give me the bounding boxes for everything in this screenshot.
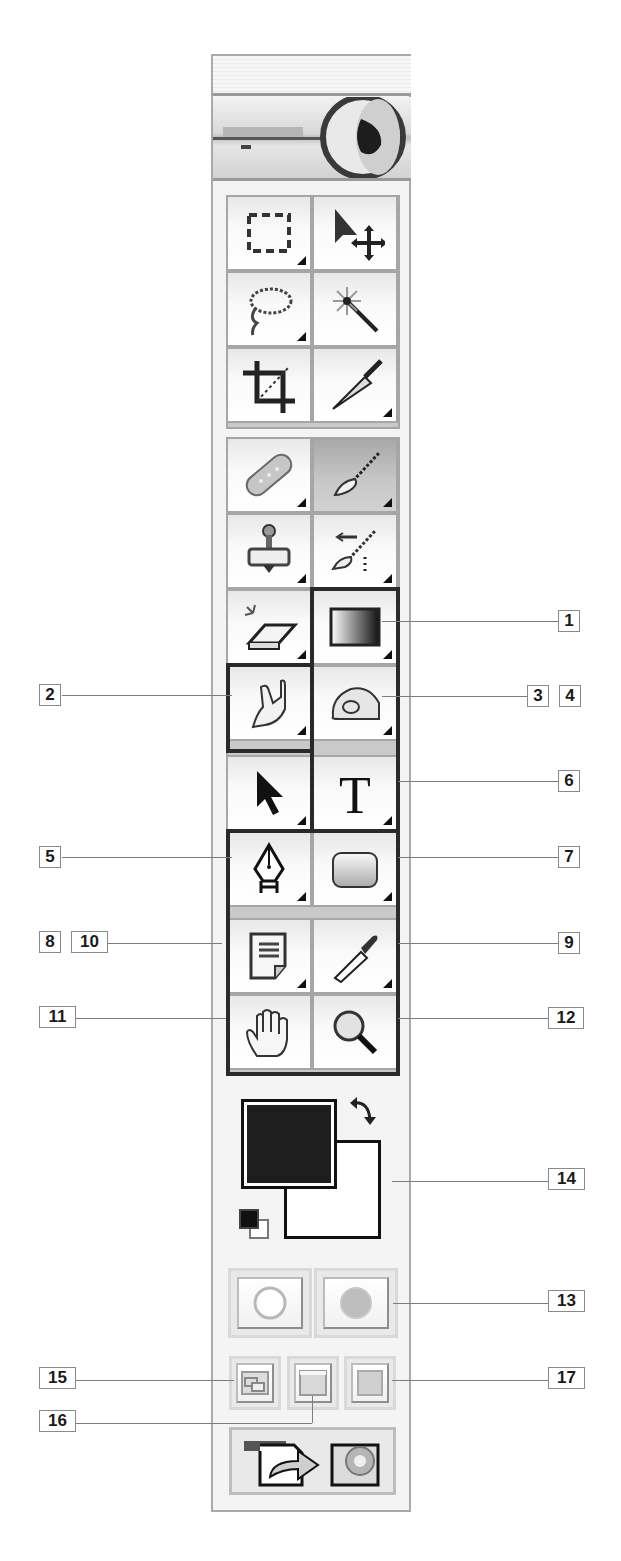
eraser-tool[interactable] [226, 589, 312, 665]
lasso-tool[interactable] [226, 271, 312, 347]
leader-line-3-4 [382, 696, 527, 697]
leader-line-16 [76, 1423, 312, 1424]
toolbox-title-bar[interactable] [213, 56, 411, 96]
notes-tool[interactable] [226, 918, 312, 994]
slice-tool[interactable] [312, 347, 398, 423]
flyout-indicator-icon [297, 650, 306, 659]
callout-4: 4 [559, 685, 581, 707]
callout-10: 10 [71, 931, 108, 953]
move-tool[interactable] [312, 195, 398, 271]
leader-line-6 [398, 781, 558, 782]
callout-5: 5 [39, 846, 61, 868]
crop-tool[interactable] [226, 347, 312, 423]
foreground-color-swatch[interactable] [241, 1099, 337, 1189]
dodge-tool[interactable] [312, 665, 398, 741]
callout-15: 15 [39, 1367, 76, 1389]
eyedropper-tool[interactable] [312, 918, 398, 994]
swap-arrows-icon[interactable] [348, 1095, 378, 1131]
quick-mask-mode-button[interactable] [314, 1268, 398, 1338]
leader-line-13 [393, 1303, 548, 1304]
smudge-tool[interactable] [226, 665, 312, 741]
callout-13: 13 [548, 1290, 585, 1312]
zoom-tool[interactable] [312, 994, 398, 1070]
standard-screen-mode-button[interactable] [229, 1356, 281, 1410]
clone-stamp-tool[interactable] [226, 513, 312, 589]
leader-line-8-10 [108, 943, 222, 944]
leader-line-16-vertical [312, 1396, 313, 1423]
crop-icon [239, 355, 299, 415]
history-brush-icon [325, 521, 385, 581]
windows-icon [240, 1370, 270, 1396]
type-tool[interactable]: T [312, 755, 398, 831]
flyout-indicator-icon [297, 816, 306, 825]
slice-knife-icon [325, 355, 385, 415]
flyout-indicator-icon [383, 726, 392, 735]
dodge-sponge-icon [325, 673, 385, 733]
plain-square-icon [356, 1369, 384, 1397]
leader-line-2 [62, 695, 232, 696]
flyout-indicator-icon [297, 892, 306, 901]
history-brush-tool[interactable] [312, 513, 398, 589]
flyout-indicator-icon [383, 574, 392, 583]
leader-line-1 [382, 621, 558, 622]
leader-line-14 [392, 1181, 548, 1182]
eraser-icon [239, 597, 299, 657]
marquee-icon [239, 203, 299, 263]
bandage-icon [239, 445, 299, 505]
leader-line-9 [398, 943, 558, 944]
callout-8: 8 [39, 931, 61, 953]
empty-circle-icon [252, 1285, 288, 1321]
gradient-tool[interactable] [312, 589, 398, 665]
leader-line-12 [398, 1018, 548, 1019]
callout-3: 3 [527, 685, 549, 707]
leader-line-15 [76, 1380, 234, 1381]
magic-wand-icon [325, 279, 385, 339]
smudge-finger-icon [239, 673, 299, 733]
rounded-rect-icon [325, 839, 385, 899]
flyout-indicator-icon [297, 256, 306, 265]
flyout-indicator-icon [383, 498, 392, 507]
leader-line-11 [76, 1018, 226, 1019]
full-screen-menu-mode-button[interactable] [287, 1356, 339, 1410]
flyout-indicator-icon [383, 979, 392, 988]
default-colors-icon[interactable] [239, 1209, 271, 1241]
flyout-indicator-icon [297, 979, 306, 988]
jump-arrow-icon [238, 1433, 388, 1489]
window-menubar-icon [298, 1369, 328, 1397]
arrow-cursor-icon [239, 763, 299, 823]
flyout-indicator-icon [383, 892, 392, 901]
callout-6: 6 [558, 770, 580, 792]
brush-tool[interactable] [312, 437, 398, 513]
callout-2: 2 [39, 684, 61, 706]
jump-to-imageready-button[interactable] [229, 1427, 396, 1495]
standard-mode-button[interactable] [228, 1268, 312, 1338]
magic-wand-tool[interactable] [312, 271, 398, 347]
callout-12: 12 [548, 1007, 584, 1029]
callout-16: 16 [39, 1410, 76, 1432]
pen-tool[interactable] [226, 831, 312, 907]
callout-9: 9 [558, 932, 580, 954]
shape-tool[interactable] [312, 831, 398, 907]
healing-brush-tool[interactable] [226, 437, 312, 513]
flyout-indicator-icon [383, 816, 392, 825]
move-icon [325, 203, 385, 263]
flyout-indicator-icon [297, 498, 306, 507]
type-t-icon: T [325, 763, 385, 823]
stamp-icon [239, 521, 299, 581]
flyout-indicator-icon [297, 332, 306, 341]
svg-text:T: T [339, 767, 371, 823]
eyedropper-icon [325, 926, 385, 986]
hand-icon [239, 1002, 299, 1062]
rectangular-marquee-tool[interactable] [226, 195, 312, 271]
leader-line-17 [392, 1380, 548, 1381]
full-screen-mode-button[interactable] [344, 1356, 396, 1410]
callout-17: 17 [548, 1367, 585, 1389]
hand-tool[interactable] [226, 994, 312, 1070]
brush-icon [325, 445, 385, 505]
flyout-indicator-icon [383, 408, 392, 417]
callout-14: 14 [548, 1168, 585, 1190]
path-selection-tool[interactable] [226, 755, 312, 831]
note-icon [239, 926, 299, 986]
eye-logo-icon[interactable] [213, 97, 411, 181]
callout-7: 7 [558, 846, 580, 868]
